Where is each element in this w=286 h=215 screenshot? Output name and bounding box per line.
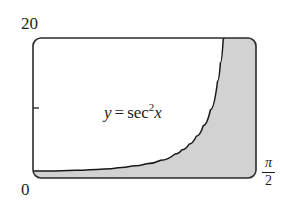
figure-sec-squared-plot: 20 0 π 2 y=sec2x <box>0 0 286 215</box>
equation-function-name: sec <box>127 103 149 122</box>
equation-argument: x <box>154 103 162 122</box>
x-axis-max-denominator: 2 <box>263 174 274 189</box>
x-axis-max-numerator: π <box>263 156 274 171</box>
x-axis-max-label: π 2 <box>262 156 275 188</box>
y-axis-max-label: 20 <box>21 15 38 32</box>
curve-equation-label: y=sec2x <box>104 103 162 123</box>
equation-equals-sign: = <box>112 103 128 122</box>
y-axis-min-label: 0 <box>21 181 30 198</box>
equation-lhs: y <box>104 103 112 122</box>
